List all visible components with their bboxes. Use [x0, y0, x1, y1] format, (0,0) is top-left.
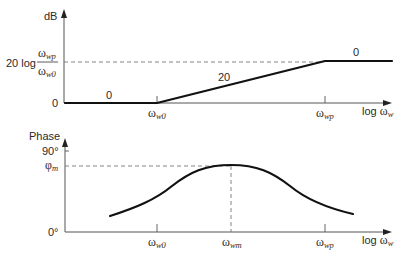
magnitude-y-axis-arrow-icon [61, 9, 67, 18]
magnitude-y-tick-high-num: ωwp [38, 46, 56, 61]
bode-diagram: dB 0 20 log ωwp ωw0 ωw0 ωwp log ωw 0 20 … [0, 0, 401, 253]
phase-x-label: log ωw [362, 233, 394, 248]
phase-y-label: Phase [29, 130, 60, 142]
slope-label-mid: 20 [218, 71, 230, 83]
phase-x-tick-label-w0: ωw0 [148, 235, 167, 250]
phase-y-tick-zero-label: 0° [48, 226, 59, 238]
phase-y-axis-arrow-icon [62, 138, 68, 147]
magnitude-y-tick-high-prefix: 20 log [6, 57, 36, 69]
magnitude-plot: dB 0 20 log ωwp ωw0 ωw0 ωwp log ωw 0 20 … [6, 9, 394, 121]
magnitude-y-tick-zero: 0 [52, 97, 58, 109]
phase-plot: Phase 90° φm 0° ωw0 ωwm ωwp log ωw [29, 130, 394, 250]
slope-label-high: 0 [353, 46, 359, 58]
magnitude-x-tick-label-w0: ωw0 [148, 106, 167, 121]
magnitude-x-tick-label-wp: ωwp [316, 106, 334, 121]
phase-y-tick-peak-label: φm [45, 158, 58, 173]
slope-label-low: 0 [106, 89, 112, 101]
phase-x-tick-label-wm: ωwm [222, 235, 242, 250]
phase-x-tick-label-wp: ωwp [316, 235, 334, 250]
phase-curve [110, 165, 353, 216]
magnitude-y-tick-high-den: ωw0 [38, 64, 57, 79]
magnitude-y-label: dB [44, 10, 57, 22]
phase-y-tick-90-label: 90° [42, 145, 59, 157]
magnitude-x-label: log ωw [362, 104, 394, 119]
